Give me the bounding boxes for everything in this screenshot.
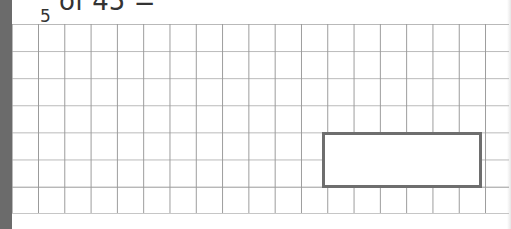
page-edge-strip: [0, 0, 12, 229]
answer-box[interactable]: [322, 132, 482, 188]
question-expression: of 45 =: [59, 0, 155, 16]
fraction-denominator: 5: [40, 6, 51, 26]
working-grid-bottom-row: [12, 187, 509, 214]
